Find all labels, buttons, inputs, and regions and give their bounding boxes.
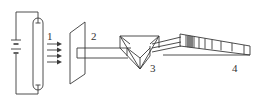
label-screen: 4 — [232, 62, 238, 74]
arrow-icon — [47, 60, 62, 65]
discharge-tube — [33, 18, 43, 90]
spectrum-screen — [163, 34, 250, 55]
dispersed-rays — [152, 37, 181, 52]
arrow-icon — [47, 42, 62, 47]
optics-diagram: 1 — [0, 0, 258, 102]
slit-plate — [70, 22, 85, 84]
arrow-icon — [47, 54, 62, 59]
label-source: 1 — [47, 30, 53, 42]
arrow-icon — [47, 48, 62, 53]
label-slit: 2 — [91, 30, 97, 42]
battery-circuit — [11, 12, 38, 94]
light-arrows — [47, 42, 62, 65]
battery-icon — [11, 40, 21, 53]
label-prism: 3 — [150, 62, 156, 74]
